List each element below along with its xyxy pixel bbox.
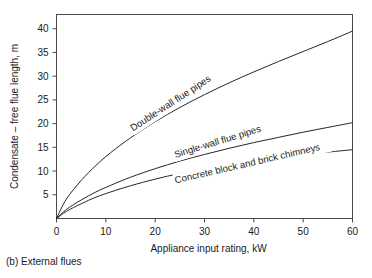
y-axis-tick-labels: 510152025303540 — [37, 23, 49, 200]
y-tick-label: 10 — [37, 166, 49, 177]
plot-frame — [57, 15, 353, 219]
figure-external-flues: 0102030405060 510152025303540 Double-wal… — [0, 0, 372, 278]
x-tick-label: 50 — [298, 226, 310, 237]
x-axis-ticks — [57, 219, 353, 223]
series-label-group-1: Double-wall flue pipes — [127, 64, 226, 135]
curve-1 — [57, 31, 353, 218]
x-axis-tick-labels: 0102030405060 — [54, 226, 359, 237]
x-tick-label: 40 — [248, 226, 260, 237]
y-tick-label: 40 — [37, 23, 49, 34]
x-tick-label: 10 — [100, 226, 112, 237]
x-tick-label: 30 — [199, 226, 211, 237]
y-axis-ticks — [53, 29, 57, 195]
y-axis-title: Condensate – free flue length, m — [9, 44, 20, 189]
series-inline-labels: Double-wall flue pipesSingle-wall flue p… — [127, 64, 336, 188]
chart-canvas: 0102030405060 510152025303540 Double-wal… — [0, 0, 372, 278]
y-tick-label: 20 — [37, 118, 49, 129]
y-tick-label: 25 — [37, 94, 49, 105]
x-tick-label: 0 — [54, 226, 60, 237]
y-tick-label: 5 — [43, 189, 49, 200]
data-curves — [57, 31, 353, 218]
figure-caption: (b) External flues — [6, 256, 82, 267]
x-axis-title: Appliance input rating, kW — [150, 243, 267, 254]
series-label: Single-wall flue pipes — [173, 123, 263, 160]
x-tick-label: 20 — [150, 226, 162, 237]
x-tick-label: 60 — [347, 226, 359, 237]
curve-3 — [57, 150, 353, 219]
y-tick-label: 15 — [37, 142, 49, 153]
series-label: Double-wall flue pipes — [128, 72, 213, 133]
y-tick-label: 35 — [37, 47, 49, 58]
y-tick-label: 30 — [37, 71, 49, 82]
